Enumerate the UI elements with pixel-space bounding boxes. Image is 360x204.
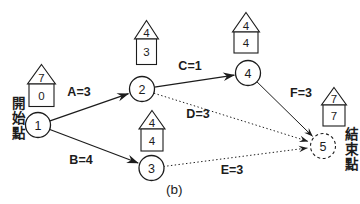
edge-D [154, 93, 308, 141]
diagram-canvas: A=3 B=4 C=1 D=3 E=3 F=3 7 0 4 3 [0, 0, 360, 204]
node-label-4: 4 [245, 67, 252, 81]
house-roof-value-node-3: 4 [149, 117, 156, 129]
edge-label-A: A=3 [67, 85, 90, 99]
node-1: 1 [26, 113, 51, 138]
node-3: 3 [139, 156, 164, 181]
house-body-value-node-5: 7 [331, 110, 337, 122]
node-label-5: 5 [320, 140, 327, 154]
edge-C [154, 75, 234, 87]
edge-label-D: D=3 [186, 107, 209, 121]
node-2: 2 [130, 77, 155, 102]
start-point-label: 開始點 [9, 96, 24, 141]
edge-label-B: B=4 [69, 153, 92, 167]
end-point-label: 結束點 [342, 127, 357, 172]
house-roof-value-node-2: 4 [143, 27, 150, 39]
house-body-value-node-2: 3 [143, 46, 149, 58]
edge-label-C: C=1 [178, 59, 201, 73]
figure-caption: (b) [166, 182, 183, 197]
activity-network-diagram: A=3 B=4 C=1 D=3 E=3 F=3 7 0 4 3 [0, 0, 360, 204]
house-node-5: 7 7 [322, 88, 347, 127]
house-node-2: 4 3 [135, 21, 159, 65]
house-body-value-node-3: 4 [149, 135, 156, 147]
node-label-1: 1 [35, 119, 42, 133]
house-roof-value-node-1: 7 [38, 72, 44, 84]
edge-B [49, 129, 138, 163]
node-5: 5 [311, 134, 336, 159]
house-node-1: 7 0 [28, 65, 56, 107]
house-node-4: 4 4 [233, 13, 260, 54]
edge-label-E: E=3 [221, 163, 244, 177]
edge-labels: A=3 B=4 C=1 D=3 E=3 F=3 [67, 59, 312, 177]
house-roof-value-node-5: 7 [331, 93, 337, 105]
node-label-3: 3 [148, 162, 155, 176]
edge-label-F: F=3 [290, 86, 312, 100]
house-body-value-node-4: 4 [243, 37, 250, 49]
house-body-value-node-1: 0 [38, 90, 44, 102]
house-roof-value-node-4: 4 [243, 20, 250, 32]
node-4: 4 [236, 61, 261, 86]
node-label-2: 2 [139, 83, 146, 97]
house-node-3: 4 4 [139, 111, 165, 152]
